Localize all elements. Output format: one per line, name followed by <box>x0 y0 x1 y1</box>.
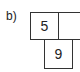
cell-top-right <box>58 12 80 40</box>
cell-top-left: 5 <box>30 12 59 40</box>
cell-bottom: 9 <box>44 39 73 69</box>
part-label: b) <box>6 9 17 23</box>
